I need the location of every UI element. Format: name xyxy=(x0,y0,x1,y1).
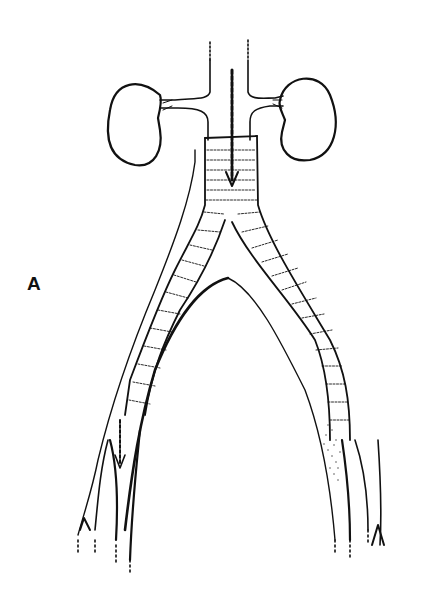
flow-arrow-left-leg xyxy=(115,420,125,468)
bifurcated-graft xyxy=(125,136,350,440)
aorta xyxy=(160,40,283,140)
anatomy-diagram xyxy=(0,0,421,590)
femoral-arteries xyxy=(78,430,384,575)
right-kidney xyxy=(279,79,335,161)
left-kidney xyxy=(108,84,161,165)
flow-arrow-aorta xyxy=(226,70,238,186)
